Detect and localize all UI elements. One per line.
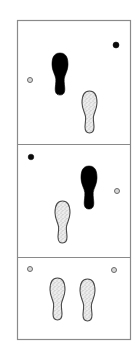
outer-frame bbox=[18, 21, 131, 340]
open-circle-marker-icon bbox=[115, 189, 120, 194]
open-circle-marker-icon bbox=[28, 267, 33, 272]
open-circle-marker-icon bbox=[28, 78, 33, 83]
open-circle-marker-icon bbox=[112, 268, 117, 273]
solid-dot-marker-icon bbox=[28, 154, 34, 160]
diagram-frame bbox=[17, 21, 131, 340]
footprint-diagram bbox=[0, 0, 135, 349]
solid-dot-marker-icon bbox=[113, 42, 119, 48]
